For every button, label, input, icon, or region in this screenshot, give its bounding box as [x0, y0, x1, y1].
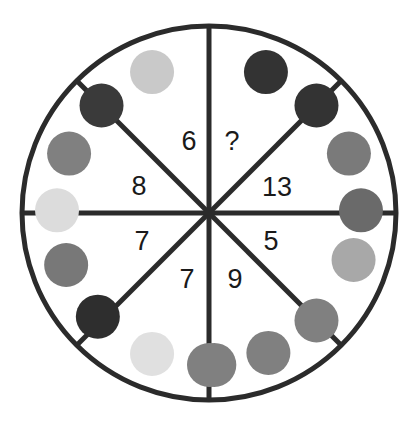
sector-top-left-label: 6 — [181, 126, 196, 156]
dot-9 — [332, 238, 376, 282]
sector-top-right-label: ? — [224, 126, 239, 156]
dot-10 — [44, 243, 88, 287]
sector-left-upper-label: 8 — [131, 171, 146, 201]
puzzle-figure: ?13597786 — [0, 0, 416, 425]
dot-8 — [339, 188, 383, 232]
dot-6 — [327, 132, 371, 176]
dot-1 — [130, 50, 174, 94]
wheel-group: ?13597786 — [22, 26, 396, 400]
dot-16 — [192, 343, 236, 387]
dot-3 — [80, 84, 124, 128]
number-wheel-diagram: ?13597786 — [0, 0, 416, 425]
sector-bottom-right-label: 9 — [227, 264, 242, 294]
sector-right-lower-label: 5 — [263, 226, 278, 256]
dot-7 — [35, 188, 79, 232]
sector-bottom-left-label: 7 — [179, 264, 194, 294]
sector-left-lower-label: 7 — [134, 226, 149, 256]
dot-13 — [130, 332, 174, 376]
dot-4 — [294, 84, 338, 128]
dot-11 — [76, 295, 120, 339]
dot-2 — [244, 50, 288, 94]
sector-right-upper-label: 13 — [262, 172, 292, 202]
dot-12 — [294, 298, 338, 342]
dot-5 — [47, 132, 91, 176]
dot-14 — [246, 331, 290, 375]
